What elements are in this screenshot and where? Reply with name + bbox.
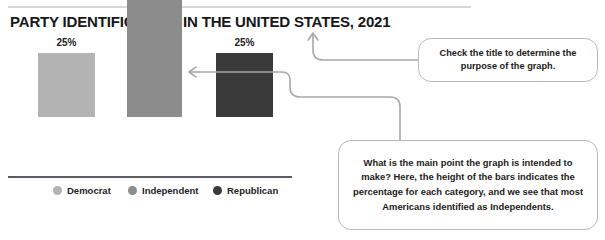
bar-value-republican: 25% — [234, 37, 254, 48]
legend-item-democrat: Democrat — [53, 185, 111, 196]
legend-item-independent: Independent — [128, 185, 198, 196]
chart-legend: Democrat Independent Republican — [8, 185, 298, 203]
legend-swatch-icon-democrat — [53, 186, 62, 195]
bar-group-democrat: 25% — [38, 53, 95, 117]
bar-group-independent: 50% — [127, 0, 182, 117]
legend-label-democrat: Democrat — [67, 185, 111, 196]
callout-main-point: What is the main point the graph is inte… — [338, 140, 598, 230]
chart-figure: PARTY IDENTIFICATION IN THE UNITED STATE… — [0, 0, 605, 240]
bar-chart-plot-area: 25% 50% 25% — [0, 0, 300, 180]
legend-swatch-icon-independent — [128, 186, 137, 195]
x-axis-baseline — [8, 176, 292, 178]
callout-main-point-text: What is the main point the graph is inte… — [349, 156, 587, 214]
bar-republican — [216, 53, 273, 117]
connector-line-main-callout-vertical — [290, 84, 400, 140]
arrow-head-up-icon — [308, 33, 318, 40]
connector-line-title-callout — [313, 34, 418, 60]
legend-label-independent: Independent — [142, 185, 198, 196]
bar-democrat — [38, 53, 95, 117]
callout-check-title: Check the title to determine the purpose… — [418, 38, 598, 82]
bar-value-democrat: 25% — [56, 37, 76, 48]
bar-independent — [127, 0, 182, 117]
legend-item-republican: Republican — [213, 185, 278, 196]
callout-check-title-text: Check the title to determine the purpose… — [429, 47, 587, 74]
legend-label-republican: Republican — [227, 185, 278, 196]
bar-group-republican: 25% — [216, 53, 273, 117]
legend-swatch-icon-republican — [213, 186, 222, 195]
